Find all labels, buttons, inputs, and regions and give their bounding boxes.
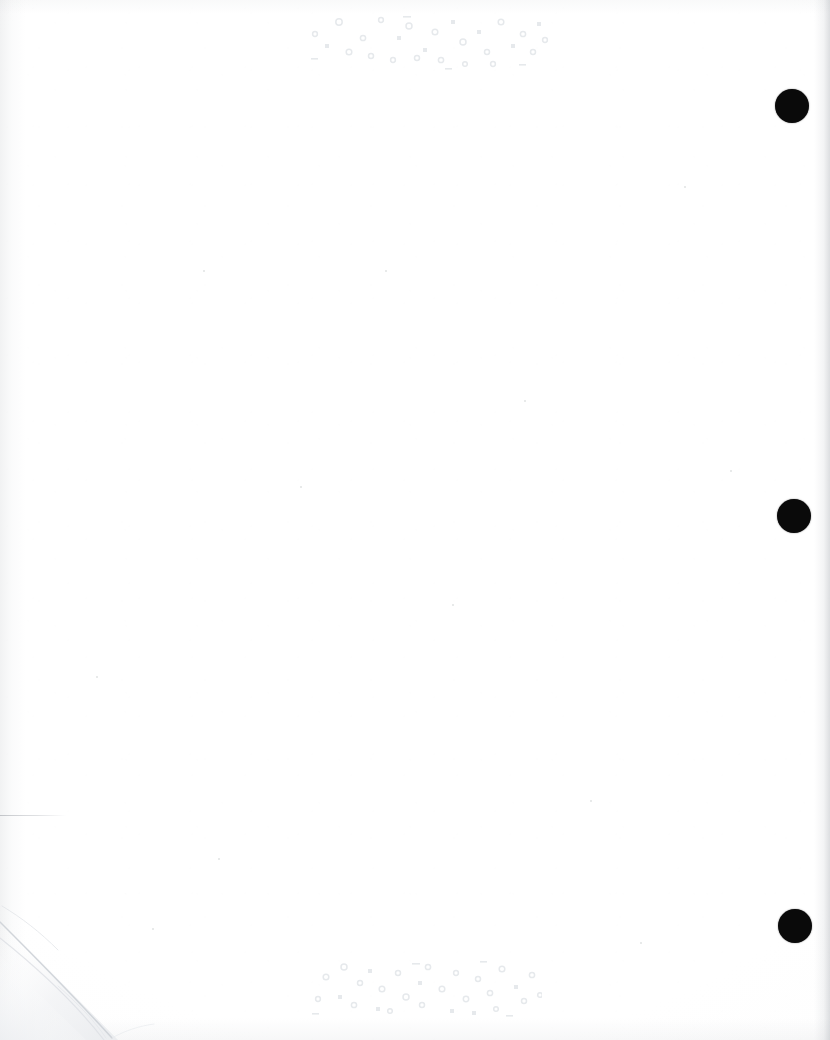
dust-speck (218, 858, 220, 860)
dust-speck (300, 486, 302, 488)
page-edge-shadow-right (814, 0, 830, 1040)
dust-speck (684, 186, 686, 188)
scanned-page (0, 0, 830, 1040)
dust-speck (385, 270, 387, 272)
page-edge-shadow-left (0, 0, 26, 1040)
dust-speck (590, 800, 592, 802)
dust-speck (640, 942, 642, 944)
page-edge-shadow-top (0, 0, 830, 14)
registration-dot (775, 89, 809, 123)
faint-horizontal-mark (0, 815, 66, 816)
dust-speck (152, 928, 154, 930)
paper-grain-texture (0, 0, 830, 1040)
dust-speck (452, 604, 454, 606)
registration-dot (777, 499, 811, 533)
dust-speck (96, 676, 98, 678)
dust-speck (730, 470, 732, 472)
registration-dot (778, 909, 812, 943)
dust-speck (524, 400, 526, 402)
dust-speck (203, 270, 205, 272)
page-edge-shadow-bottom (0, 1018, 830, 1040)
